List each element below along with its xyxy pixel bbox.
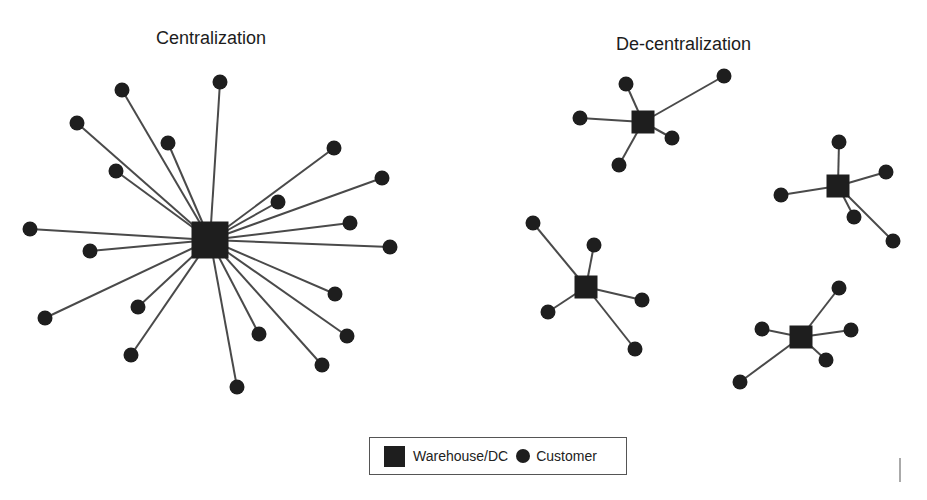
customer-node (717, 69, 732, 84)
customer-node (755, 322, 770, 337)
customer-node (832, 135, 847, 150)
customer-node (628, 342, 643, 357)
customer-node (774, 188, 789, 203)
customer-node (124, 348, 139, 363)
customer-node (819, 353, 834, 368)
customer-node (23, 222, 38, 237)
customer-node (83, 244, 98, 259)
network-link (210, 82, 220, 240)
customer-node (526, 216, 541, 231)
customer-node (886, 234, 901, 249)
centralization-network (23, 75, 398, 395)
network-link (210, 240, 335, 294)
network-link (45, 240, 210, 318)
network-link (77, 123, 210, 240)
customer-node (70, 116, 85, 131)
network-link (643, 76, 724, 122)
customer-node (343, 216, 358, 231)
network-diagram (0, 0, 927, 500)
network-link (30, 229, 210, 240)
customer-node (213, 75, 228, 90)
customer-node (252, 327, 267, 342)
warehouse-node (192, 222, 229, 259)
customer-node (619, 77, 634, 92)
legend: Warehouse/DC Customer (369, 437, 627, 475)
customer-node (161, 136, 176, 151)
customer-node (587, 238, 602, 253)
warehouse-node (790, 326, 813, 349)
customer-node (271, 195, 286, 210)
customer-node (328, 287, 343, 302)
customer-node (733, 375, 748, 390)
warehouse-node (575, 276, 598, 299)
decentralization-network (526, 69, 901, 390)
customer-node (832, 281, 847, 296)
customer-node (383, 240, 398, 255)
customer-node (879, 165, 894, 180)
customer-node (230, 380, 245, 395)
warehouse-node (827, 175, 850, 198)
network-link (210, 240, 237, 387)
customer-node (541, 305, 556, 320)
customer-node (573, 111, 588, 126)
customer-node (665, 131, 680, 146)
network-link (210, 240, 322, 365)
customer-node (635, 293, 650, 308)
customer-node (131, 300, 146, 315)
warehouse-node (632, 111, 655, 134)
legend-customer-label: Customer (536, 448, 597, 464)
customer-node (375, 171, 390, 186)
page-edge-mark (899, 458, 901, 482)
network-link (210, 240, 347, 336)
warehouse-square-icon (384, 446, 405, 467)
network-link (210, 178, 382, 240)
customer-node (315, 358, 330, 373)
customer-node (340, 329, 355, 344)
customer-node (115, 83, 130, 98)
customer-node (844, 323, 859, 338)
customer-node (327, 141, 342, 156)
legend-warehouse-label: Warehouse/DC (413, 448, 508, 464)
customer-dot-icon (516, 449, 530, 463)
network-link (210, 240, 390, 247)
customer-node (612, 158, 627, 173)
network-link (122, 90, 210, 240)
customer-node (38, 311, 53, 326)
customer-node (847, 210, 862, 225)
customer-node (109, 164, 124, 179)
